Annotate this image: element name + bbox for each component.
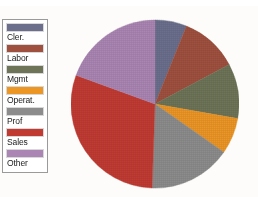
legend-label-labor: Labor [6,53,44,64]
legend-item-other[interactable]: Other [6,149,44,169]
legend-label-prof: Prof [6,116,44,127]
legend-swatch-other [6,149,44,158]
legend-item-labor[interactable]: Labor [6,44,44,64]
legend-item-prof[interactable]: Prof [6,107,44,127]
legend-label-other: Other [6,158,44,169]
legend-swatch-operat [6,86,44,95]
pie-slice-group [71,20,239,188]
legend-item-sales[interactable]: Sales [6,128,44,148]
legend-swatch-prof [6,107,44,116]
legend-item-mgmt[interactable]: Mgmt [6,65,44,85]
legend-swatch-cler [6,23,44,32]
pie-chart [71,19,239,189]
legend-label-operat: Operat. [6,95,44,106]
page-top-margin [0,0,258,6]
pie-chart-svg [71,19,239,189]
legend-swatch-mgmt [6,65,44,74]
chart-canvas: Cler. Labor Mgmt Operat. Prof Sales Othe… [0,0,258,197]
chart-legend: Cler. Labor Mgmt Operat. Prof Sales Othe… [2,19,48,173]
legend-item-operat[interactable]: Operat. [6,86,44,106]
legend-swatch-sales [6,128,44,137]
legend-label-mgmt: Mgmt [6,74,44,85]
legend-label-sales: Sales [6,137,44,148]
legend-swatch-labor [6,44,44,53]
legend-label-cler: Cler. [6,32,44,43]
legend-item-cler[interactable]: Cler. [6,23,44,43]
